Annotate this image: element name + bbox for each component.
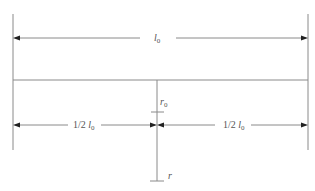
half-length-dimensions: 1/2 l0 1/2 l0 xyxy=(13,119,308,132)
arrowhead-left-icon xyxy=(13,36,20,41)
arrowhead-right-icon xyxy=(150,123,157,128)
total-length-dimension: l0 xyxy=(13,32,308,45)
r-label: r xyxy=(168,170,172,181)
right-half-label: 1/2 l0 xyxy=(223,119,245,132)
arrowhead-left-icon xyxy=(13,123,20,128)
dimension-diagram: l0 r0 1/2 l0 1/2 l0 r xyxy=(0,0,315,191)
r0-label: r0 xyxy=(160,96,168,109)
arrowhead-right-icon xyxy=(301,123,308,128)
arrowhead-right-icon xyxy=(301,36,308,41)
arrowhead-left-icon xyxy=(157,123,164,128)
total-length-label: l0 xyxy=(154,32,161,45)
left-half-label: 1/2 l0 xyxy=(73,119,95,132)
